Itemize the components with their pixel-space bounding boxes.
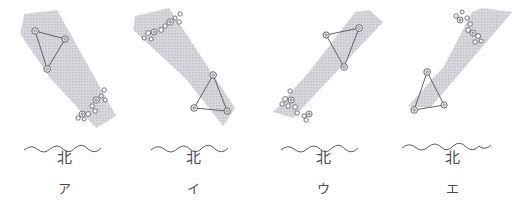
- sky-diagram-u: [259, 0, 388, 138]
- panel-u: 北 ウ: [259, 0, 388, 209]
- panel-key-i: イ: [129, 182, 258, 195]
- direction-label-north: 北: [0, 151, 129, 166]
- panel-u-labels: 北 ウ: [259, 134, 388, 209]
- direction-label-north: 北: [388, 151, 517, 166]
- panel-i-labels: 北 イ: [129, 134, 258, 209]
- night-sky-figure: 北 ア: [0, 0, 517, 209]
- panel-e-labels: 北 エ: [388, 134, 517, 209]
- milky-way-band: [133, 8, 235, 126]
- direction-label-north: 北: [259, 151, 388, 166]
- panel-key-u: ウ: [259, 182, 388, 195]
- panel-a-labels: 北 ア: [0, 134, 129, 209]
- panel-key-a: ア: [0, 182, 129, 195]
- panel-i: 北 イ: [129, 0, 258, 209]
- sky-diagram-e: [388, 0, 517, 138]
- panel-e: 北 エ: [388, 0, 517, 209]
- panel-row: 北 ア: [0, 0, 517, 209]
- panel-a: 北 ア: [0, 0, 129, 209]
- panel-key-e: エ: [388, 182, 517, 195]
- direction-label-north: 北: [129, 151, 258, 166]
- sky-diagram-a: [0, 0, 129, 138]
- sky-diagram-i: [129, 0, 258, 138]
